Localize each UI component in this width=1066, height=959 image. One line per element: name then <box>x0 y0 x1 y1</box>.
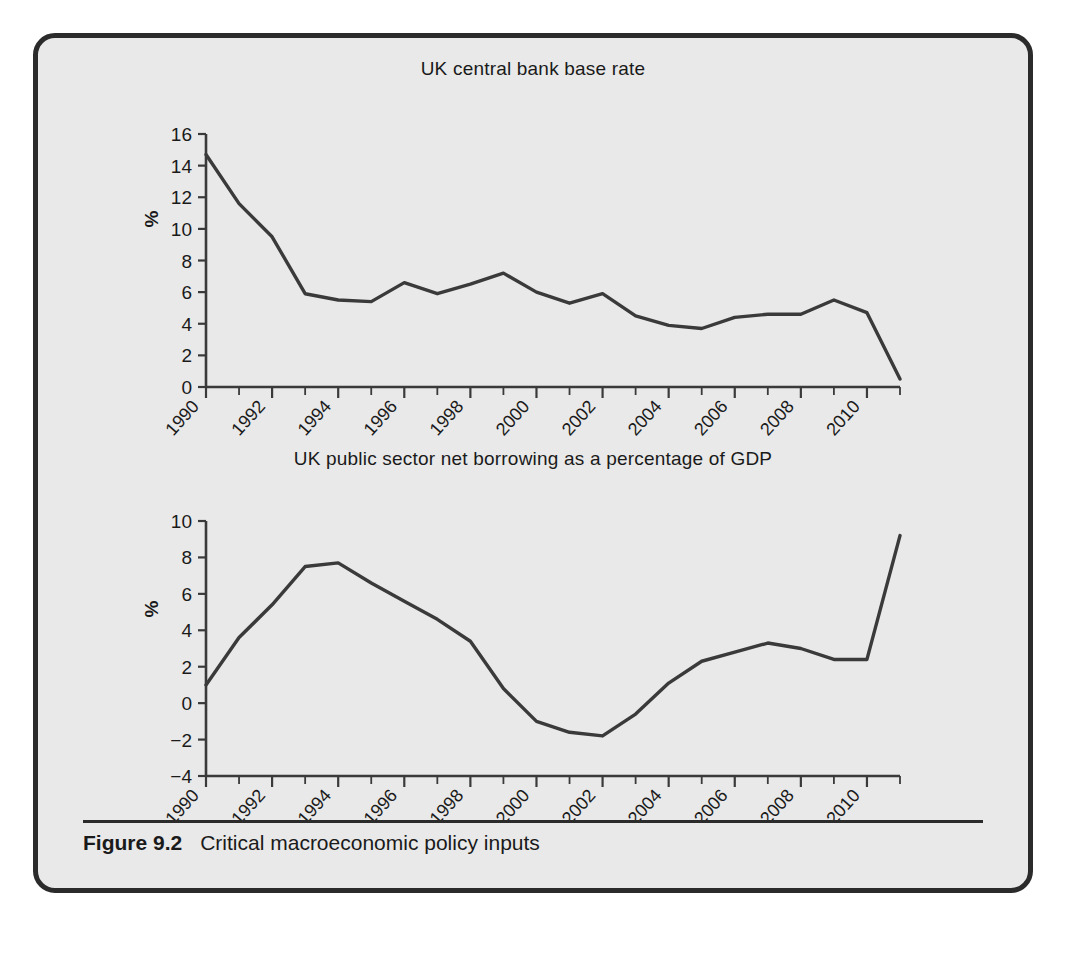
x-axis-tick-label: 1992 <box>227 785 269 820</box>
x-axis-tick-label: 1990 <box>161 785 203 820</box>
y-axis-tick-label: 0 <box>181 693 192 714</box>
x-axis-tick-label: 1996 <box>360 396 402 438</box>
figure-caption-text: Critical macroeconomic policy inputs <box>200 831 540 854</box>
x-axis-tick-label: 1994 <box>294 396 336 438</box>
caption-divider <box>83 820 983 823</box>
x-axis-tick-label: 2010 <box>822 396 864 438</box>
y-axis-tick-label: 8 <box>181 251 192 272</box>
figure-caption: Figure 9.2Critical macroeconomic policy … <box>83 831 540 855</box>
y-axis-tick-label: −4 <box>170 766 192 787</box>
y-axis-tick-label: −2 <box>170 730 192 751</box>
y-axis-tick-label: 2 <box>181 345 192 366</box>
x-axis-tick-label: 1998 <box>426 785 468 820</box>
x-axis-tick-label: 2004 <box>624 396 666 438</box>
x-axis-tick-label: 2004 <box>624 785 666 820</box>
plot-area-psnb: −4−2024681019901992199419961998200020022… <box>38 448 1038 820</box>
x-axis-tick-label: 2008 <box>756 785 798 820</box>
x-axis-tick-label: 2002 <box>558 785 600 820</box>
x-axis-tick-label: 2000 <box>492 396 534 438</box>
x-axis-tick-label: 2010 <box>822 785 864 820</box>
figure-frame: UK central bank base rate % 024681012141… <box>33 33 1033 893</box>
y-axis-tick-label: 8 <box>181 547 192 568</box>
x-axis-tick-label: 2006 <box>690 396 732 438</box>
data-series-line <box>206 536 900 736</box>
x-axis-tick-label: 1996 <box>360 785 402 820</box>
y-axis-tick-label: 12 <box>171 187 192 208</box>
x-axis-tick-label: 1994 <box>294 785 336 820</box>
x-axis-tick-label: 2008 <box>756 396 798 438</box>
chart-uk-base-rate: UK central bank base rate % 024681012141… <box>38 58 1028 438</box>
y-axis-tick-label: 10 <box>171 219 192 240</box>
x-axis-tick-label: 1992 <box>227 396 269 438</box>
y-axis-tick-label: 16 <box>171 124 192 145</box>
y-axis-tick-label: 4 <box>181 620 192 641</box>
data-series-line <box>206 155 900 380</box>
x-axis-tick-label: 1998 <box>426 396 468 438</box>
y-axis-tick-label: 0 <box>181 377 192 398</box>
y-axis-tick-label: 6 <box>181 584 192 605</box>
y-axis-tick-label: 14 <box>171 156 193 177</box>
plot-area-base-rate: 0246810121416199019921994199619982000200… <box>38 58 1038 438</box>
y-axis-tick-label: 6 <box>181 282 192 303</box>
y-axis-tick-label: 10 <box>171 511 192 532</box>
y-axis-tick-label: 2 <box>181 657 192 678</box>
figure-number: Figure 9.2 <box>83 831 182 854</box>
x-axis-tick-label: 1990 <box>161 396 203 438</box>
y-axis-tick-label: 4 <box>181 314 192 335</box>
x-axis-tick-label: 2002 <box>558 396 600 438</box>
chart-uk-psnb: UK public sector net borrowing as a perc… <box>38 448 1028 820</box>
x-axis-tick-label: 2000 <box>492 785 534 820</box>
x-axis-tick-label: 2006 <box>690 785 732 820</box>
